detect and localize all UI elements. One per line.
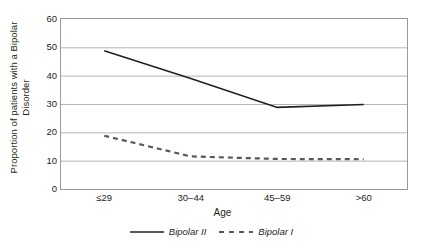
y-axis-tick-label: 20 xyxy=(35,128,57,138)
series-line-0 xyxy=(104,51,364,108)
y-axis-tick-label: 40 xyxy=(35,71,57,81)
series-line-1 xyxy=(104,136,364,160)
x-axis-title-text: Age xyxy=(214,207,232,218)
chart-legend: Bipolar IIBipolar I xyxy=(0,226,423,237)
x-axis-tick-labels: ≤2930–4445–59>60 xyxy=(0,193,423,207)
y-axis-tick-label: 10 xyxy=(35,156,57,166)
legend-item-label: Bipolar II xyxy=(169,226,207,237)
y-axis-tick-label: 60 xyxy=(35,14,57,24)
chart-figure: Proportion of patients with a Bipolar Di… xyxy=(0,0,423,250)
y-axis-title-line1: Proportion of patients with a Bipolar xyxy=(9,22,20,174)
x-axis-tick-label: 45–59 xyxy=(264,193,290,203)
legend-item-label: Bipolar I xyxy=(258,226,293,237)
x-axis-title: Age xyxy=(0,207,423,218)
plot-area xyxy=(60,18,408,190)
legend-item-1[interactable]: Bipolar I xyxy=(219,226,293,237)
plot-canvas xyxy=(61,19,407,189)
legend-item-0[interactable]: Bipolar II xyxy=(130,226,207,237)
x-axis-tick-label: ≤29 xyxy=(96,193,112,203)
x-axis-tick-label: 30–44 xyxy=(178,193,204,203)
y-axis-title-line2: Disorder xyxy=(20,22,32,174)
y-axis-tick-labels: 6050403020100 xyxy=(32,0,57,195)
dashed-line-swatch-icon xyxy=(219,228,253,236)
x-axis-tick-label: >60 xyxy=(356,193,372,203)
y-axis-tick-label: 30 xyxy=(35,99,57,109)
y-axis-tick-label: 50 xyxy=(35,43,57,53)
solid-line-swatch-icon xyxy=(130,228,164,236)
